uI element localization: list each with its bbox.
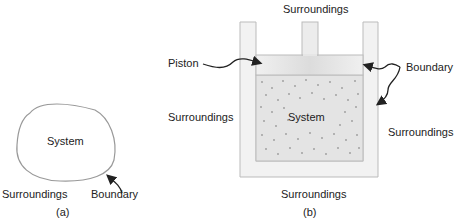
surroundings-top-label: Surroundings [283,3,348,15]
cylinder [240,22,378,177]
surroundings-label-a: Surroundings [2,188,67,200]
system-label-b: System [288,111,325,123]
boundary-label-a: Boundary [91,188,138,200]
boundary-label-b: Boundary [406,61,453,73]
piston-rod [302,22,318,55]
system-label-a: System [47,135,84,147]
surroundings-bottom-label: Surroundings [281,188,346,200]
piston-label: Piston [168,57,199,69]
caption-b: (b) [303,206,316,218]
boundary-arrow-wall [378,67,400,104]
surroundings-right-label: Surroundings [388,126,453,138]
piston-head [256,55,363,75]
caption-a: (a) [56,206,69,218]
surroundings-left-label: Surroundings [168,111,233,123]
